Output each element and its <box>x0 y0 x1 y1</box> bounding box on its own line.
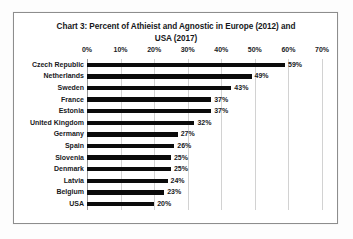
gridline <box>322 59 323 210</box>
x-tick-label: 70% <box>307 46 337 53</box>
x-tick-label: 20% <box>139 46 169 53</box>
bar-row: Czech Republic59% <box>87 59 322 71</box>
category-label: Germany <box>54 130 84 138</box>
bar <box>87 167 171 171</box>
bar <box>87 144 174 148</box>
bar-value-label: 43% <box>234 84 248 92</box>
x-tick-label: 10% <box>106 46 136 53</box>
category-label: Latvia <box>64 177 84 185</box>
category-label: Czech Republic <box>32 61 84 69</box>
x-tick-label: 30% <box>173 46 203 53</box>
bar <box>87 97 211 101</box>
bar-row: Sweden43% <box>87 82 322 94</box>
x-tick-label: 40% <box>206 46 236 53</box>
plot-area: Czech Republic59%Netherlands49%Sweden43%… <box>87 59 322 210</box>
bar-row: Netherlands49% <box>87 71 322 83</box>
bar <box>87 63 285 67</box>
chart-title: Chart 3: Percent of Athieist and Agnosti… <box>28 21 324 44</box>
bar <box>87 121 194 125</box>
bar <box>87 179 168 183</box>
category-label: Estonia <box>59 107 84 115</box>
x-tick-label: 0% <box>72 46 102 53</box>
bar-value-label: 25% <box>174 154 188 162</box>
category-label: Sweden <box>58 84 84 92</box>
bar-value-label: 27% <box>181 130 195 138</box>
chart-title-line-1: Chart 3: Percent of Athieist and Agnosti… <box>28 21 324 33</box>
bar-row: Belgium23% <box>87 187 322 199</box>
bar-value-label: 37% <box>214 96 228 104</box>
bar <box>87 202 154 206</box>
category-label: USA <box>69 200 84 208</box>
category-label: Belgium <box>56 188 84 196</box>
bar-value-label: 26% <box>177 142 191 150</box>
chart-frame: Chart 3: Percent of Athieist and Agnosti… <box>13 12 338 224</box>
bar-row: Slovenia25% <box>87 152 322 164</box>
bar <box>87 190 164 194</box>
bar-value-label: 37% <box>214 107 228 115</box>
scanned-page: Chart 3: Percent of Athieist and Agnosti… <box>0 0 353 239</box>
category-label: Slovenia <box>55 154 84 162</box>
bar-row: Denmark25% <box>87 163 322 175</box>
bar-row: United Kingdom32% <box>87 117 322 129</box>
x-tick-label: 60% <box>273 46 303 53</box>
bar-row: Spain26% <box>87 140 322 152</box>
bar-value-label: 24% <box>171 177 185 185</box>
bar <box>87 86 231 90</box>
chart-title-line-2: USA (2017) <box>28 33 324 45</box>
bar-value-label: 20% <box>157 200 171 208</box>
x-axis-tick-labels: 0%10%20%30%40%50%60%70% <box>14 46 339 58</box>
bar-value-label: 25% <box>174 165 188 173</box>
bar-row: USA20% <box>87 198 322 210</box>
bar-value-label: 59% <box>288 61 302 69</box>
bar-row: Latvia24% <box>87 175 322 187</box>
bar-rows: Czech Republic59%Netherlands49%Sweden43%… <box>87 59 322 210</box>
category-label: France <box>61 96 84 104</box>
bar <box>87 155 171 159</box>
bar <box>87 109 211 113</box>
category-label: Spain <box>65 142 84 150</box>
bar-value-label: 49% <box>255 72 269 80</box>
category-label: United Kingdom <box>30 119 84 127</box>
category-label: Denmark <box>54 165 84 173</box>
bar-value-label: 23% <box>167 188 181 196</box>
bar-value-label: 32% <box>197 119 211 127</box>
bar-row: Estonia37% <box>87 105 322 117</box>
x-tick-label: 50% <box>240 46 270 53</box>
bar-row: Germany27% <box>87 129 322 141</box>
bar <box>87 132 178 136</box>
category-label: Netherlands <box>44 72 84 80</box>
bar-row: France37% <box>87 94 322 106</box>
bar <box>87 74 252 78</box>
